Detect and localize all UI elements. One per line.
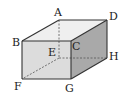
vertex-label-g: G (65, 82, 74, 95)
vertex-label-f: F (14, 80, 22, 93)
vertex-label-a: A (53, 6, 63, 19)
vertex-label-c: C (72, 40, 80, 53)
front-face (22, 41, 71, 79)
vertex-label-d: D (109, 10, 118, 23)
vertex-label-b: B (12, 36, 20, 49)
vertex-label-e: E (48, 46, 56, 59)
vertex-label-h: H (109, 50, 119, 63)
cuboid-diagram: A B C D E F G H (0, 0, 123, 97)
